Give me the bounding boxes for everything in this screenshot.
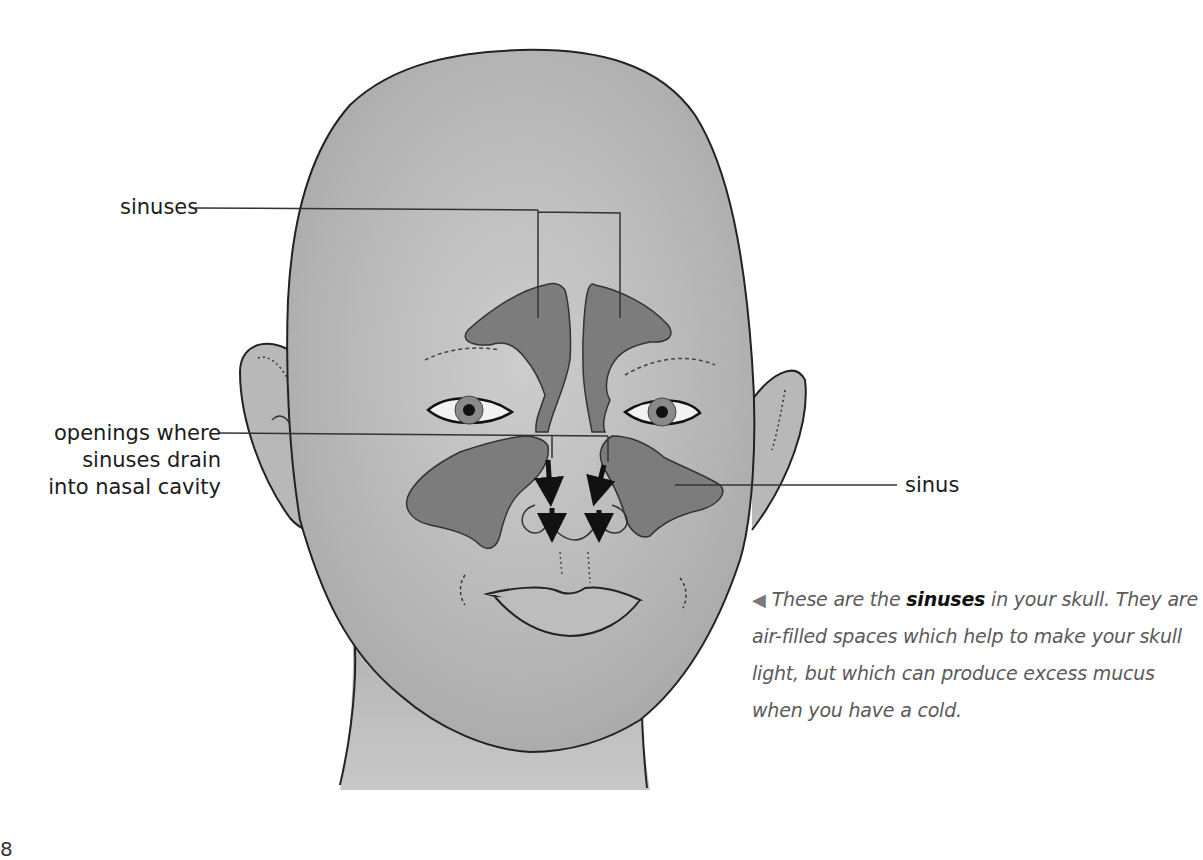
- caption-bold-term: sinuses: [906, 588, 985, 610]
- caption-text-before: These are the: [772, 588, 907, 610]
- label-sinuses: sinuses: [120, 194, 198, 221]
- label-openings-line-1: openings where: [48, 420, 221, 447]
- label-openings-line-2: sinuses drain: [48, 447, 221, 474]
- label-openings-where-sinuses-drain: openings where sinuses drain into nasal …: [48, 420, 221, 501]
- head-outline: [287, 50, 754, 752]
- drain-arrow-left-1: [548, 460, 550, 492]
- figure-caption: ◀These are the sinuses in your skull. Th…: [752, 581, 1203, 729]
- page-number: 8: [0, 839, 13, 859]
- label-openings-line-3: into nasal cavity: [48, 474, 221, 501]
- caption-pointer-icon: ◀: [752, 589, 766, 610]
- right-ear: [752, 371, 806, 530]
- label-sinus: sinus: [905, 472, 959, 499]
